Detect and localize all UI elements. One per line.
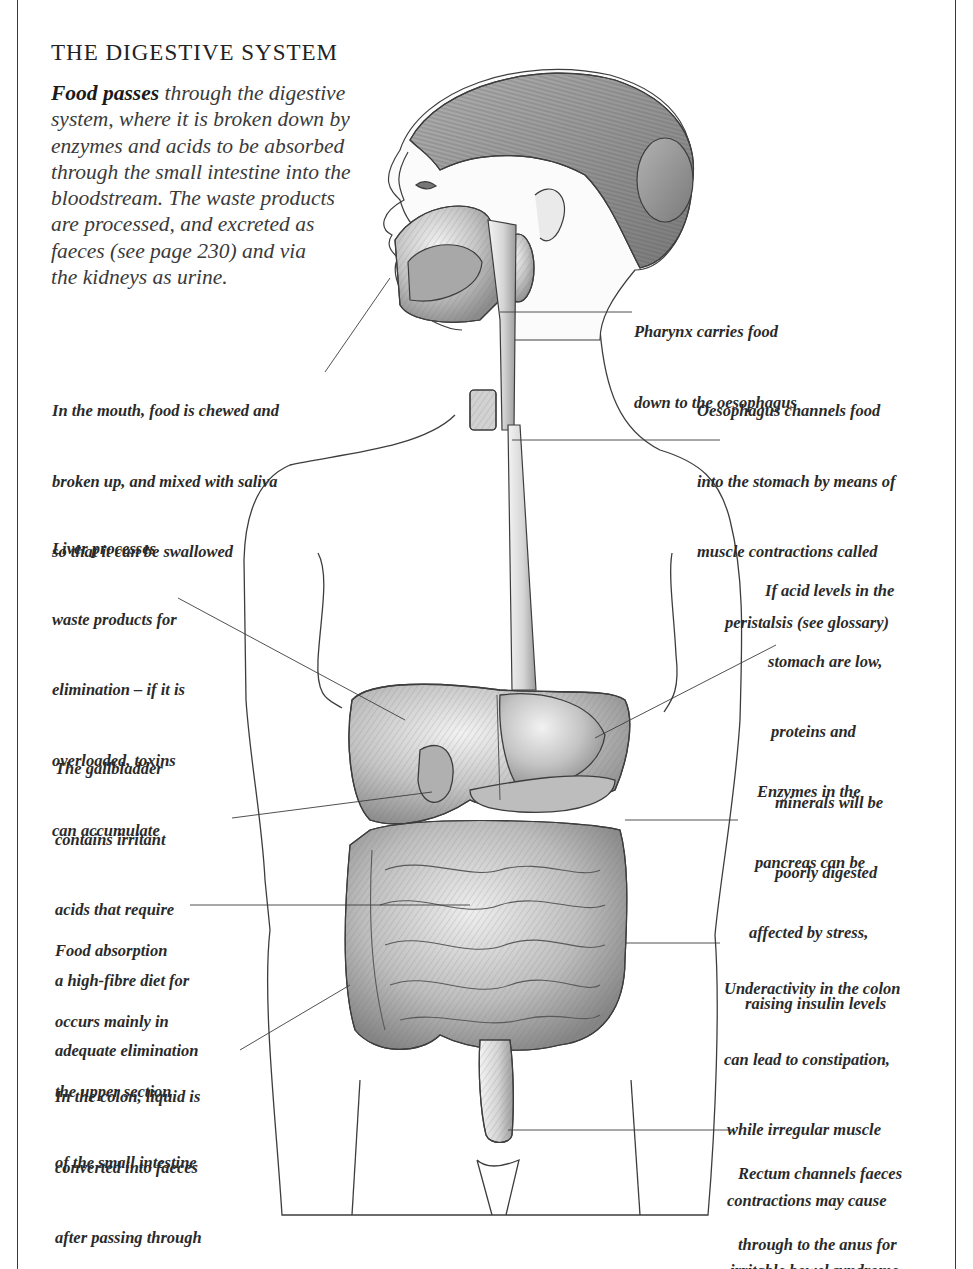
caption-line: stomach are low, — [765, 650, 894, 674]
caption-line: The gallbladder — [55, 757, 198, 781]
intro-lead: Food passes — [51, 81, 159, 105]
caption-line: contains irritant — [55, 828, 198, 852]
intro-line: through the small intestine into the — [51, 160, 351, 184]
intro-line: bloodstream. The waste products — [51, 186, 335, 210]
intro-paragraph: Food passes through the digestivesystem,… — [51, 80, 381, 290]
caption-line: In the colon, liquid is — [55, 1085, 202, 1109]
intro-line: system, where it is broken down by — [51, 107, 350, 131]
caption-line: Underactivity in the colon — [724, 977, 900, 1001]
caption-line: Oesophagus channels food — [697, 399, 895, 423]
intro-line: faeces (see page 230) and via — [51, 239, 306, 263]
caption-line: converted into faeces — [55, 1156, 202, 1180]
caption-line: occurs mainly in — [55, 1010, 197, 1034]
caption-line: can lead to constipation, — [724, 1048, 900, 1072]
intro-line: the kidneys as urine. — [51, 265, 228, 289]
intro-line: are processed, and excreted as — [51, 212, 314, 236]
caption-line: If acid levels in the — [765, 579, 894, 603]
page-title: THE DIGESTIVE SYSTEM — [51, 40, 338, 66]
caption-line: Liver processes — [52, 537, 185, 561]
caption-line: waste products for — [52, 608, 185, 632]
intestines — [345, 821, 627, 1143]
caption-line: elimination – if it is — [52, 678, 185, 702]
intro-line: enzymes and acids to be absorbed — [51, 134, 344, 158]
caption-line: Rectum channels faeces — [738, 1162, 902, 1186]
upper-organs — [349, 684, 630, 824]
caption-line: after passing through — [55, 1226, 202, 1250]
caption-line: Food absorption — [55, 939, 197, 963]
caption-rectum: Rectum channels faeces through to the an… — [738, 1115, 902, 1269]
caption-line: Pharynx carries food — [634, 320, 797, 344]
caption-line: through to the anus for — [738, 1233, 902, 1257]
caption-line: into the stomach by means of — [697, 470, 895, 494]
caption-line: pancreas can be — [745, 851, 886, 875]
caption-line: Enzymes in the — [745, 780, 886, 804]
intro-line: through the digestive — [159, 81, 345, 105]
caption-line: In the mouth, food is chewed and — [52, 399, 279, 423]
caption-colon-liquid: In the colon, liquid is converted into f… — [55, 1038, 202, 1269]
